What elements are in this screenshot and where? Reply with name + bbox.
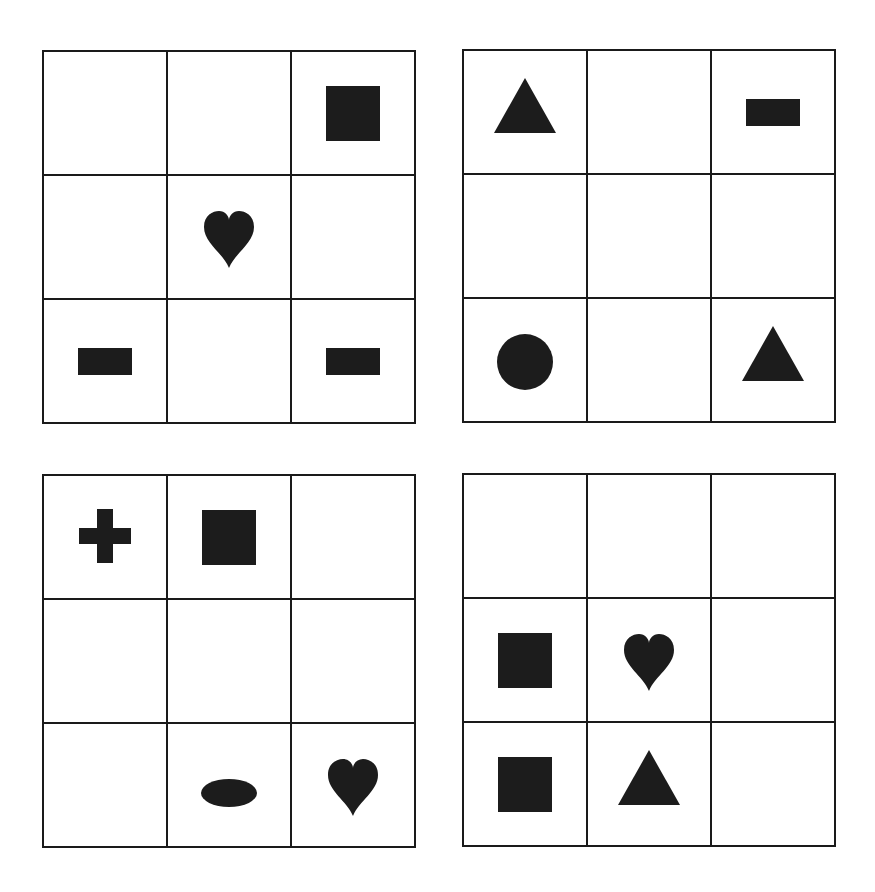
square-icon [498, 633, 552, 688]
grid-bottom-right [462, 473, 836, 847]
heart-icon [204, 211, 254, 268]
triangle-icon [618, 750, 680, 805]
bar-icon [326, 348, 380, 375]
cell-r3-c3 [326, 348, 380, 375]
heart-icon [328, 759, 378, 816]
ellipse-icon [201, 779, 257, 807]
cross-icon [79, 509, 131, 563]
cell-r2-c1 [498, 633, 552, 688]
cell-r3-c1 [497, 334, 553, 390]
triangle-icon [494, 78, 556, 133]
grid-top-left [42, 50, 416, 424]
bar-icon [746, 99, 800, 126]
cell-r2-c2 [624, 634, 674, 691]
grid-top-right [462, 49, 836, 423]
cell-r3-c3 [328, 759, 378, 816]
cell-r3-c3 [742, 326, 804, 381]
cell-r1-c1 [494, 78, 556, 133]
heart-icon [624, 634, 674, 691]
cell-r1-c2 [202, 510, 256, 565]
square-icon [202, 510, 256, 565]
circle-icon [497, 334, 553, 390]
cell-r3-c1 [78, 348, 132, 375]
grid-bottom-left [42, 474, 416, 848]
cell-r3-c1 [498, 757, 552, 812]
square-icon [326, 86, 380, 141]
square-icon [498, 757, 552, 812]
cell-r1-c3 [746, 99, 800, 126]
bar-icon [78, 348, 132, 375]
cell-r3-c2 [618, 750, 680, 805]
triangle-icon [742, 326, 804, 381]
cell-r3-c2 [201, 779, 257, 807]
cell-r2-c2 [204, 211, 254, 268]
cell-r1-c1 [79, 509, 131, 563]
cell-r1-c3 [326, 86, 380, 141]
